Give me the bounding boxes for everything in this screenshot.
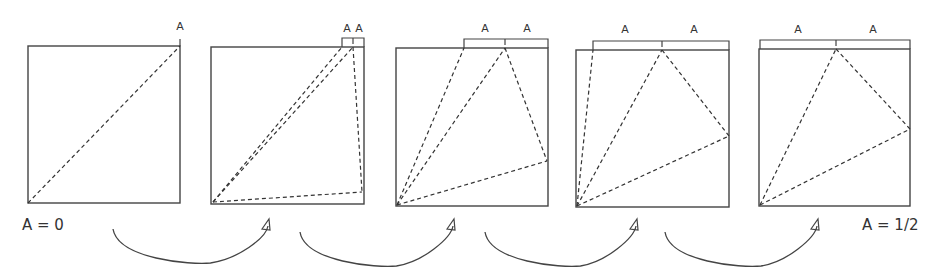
curved-arrow <box>300 226 453 266</box>
diagram-canvas <box>0 0 946 273</box>
dashed-line <box>577 50 593 206</box>
curved-arrow <box>113 226 268 263</box>
dashed-line <box>505 48 547 161</box>
dashed-line <box>760 129 910 205</box>
dashed-line <box>213 47 342 202</box>
bracket <box>342 38 364 47</box>
square-box <box>396 48 548 206</box>
label-a-equals-half: A = 1/2 <box>862 216 919 234</box>
curved-arrow <box>665 226 817 266</box>
arrowhead-icon <box>262 219 270 230</box>
dashed-line <box>213 47 353 202</box>
panel-5 <box>759 40 910 206</box>
square-box <box>576 50 729 207</box>
dashed-line <box>213 192 362 202</box>
label-a-equals-zero: A = 0 <box>22 216 64 234</box>
segment-label-a: A <box>523 22 531 35</box>
arrowhead-icon <box>447 219 455 230</box>
arrowhead-icon <box>811 219 819 230</box>
panel-3 <box>396 39 548 206</box>
arrowhead-icon <box>630 219 638 230</box>
segment-label-a: A <box>481 22 489 35</box>
dashed-line <box>397 48 505 205</box>
segment-label-a: A <box>794 23 802 36</box>
dashed-line <box>577 50 662 206</box>
square-box <box>211 47 364 204</box>
segment-label-a: A <box>690 23 698 36</box>
curved-arrow <box>485 226 636 266</box>
dashed-line <box>397 161 547 205</box>
dashed-line <box>760 49 836 205</box>
dashed-line <box>836 49 910 129</box>
segment-label-a: A <box>869 23 877 36</box>
dashed-line <box>353 47 362 192</box>
segment-label-a: A <box>343 22 351 35</box>
bracket <box>464 39 548 48</box>
panel-2 <box>211 38 364 204</box>
segment-label-a: A <box>355 22 363 35</box>
panel-4 <box>576 41 729 207</box>
dashed-line <box>28 46 180 203</box>
square-box <box>759 49 910 206</box>
dashed-line <box>577 136 729 206</box>
dashed-line <box>397 48 464 205</box>
panel-1 <box>28 39 180 203</box>
segment-label-a: A <box>621 23 629 36</box>
bracket <box>760 40 910 49</box>
dashed-line <box>662 50 729 136</box>
segment-label-a: A <box>176 20 184 33</box>
bracket <box>593 41 729 50</box>
